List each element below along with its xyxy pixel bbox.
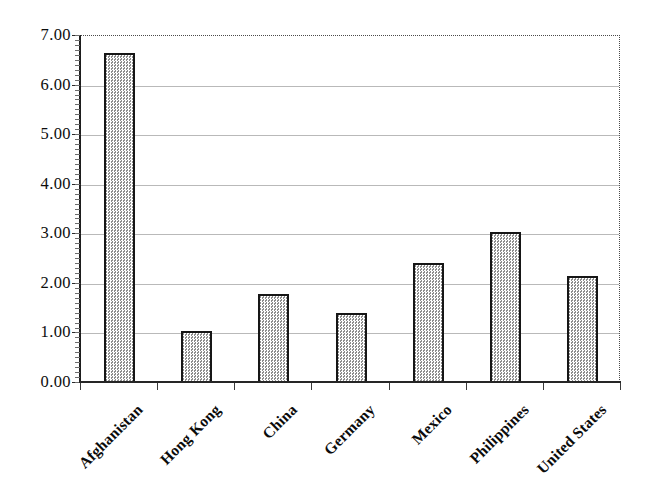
y-axis-minor-tick (75, 179, 80, 180)
y-axis-minor-tick (75, 40, 80, 41)
y-axis-minor-tick (75, 233, 80, 234)
x-axis-tick (466, 383, 467, 390)
y-axis-minor-tick (75, 164, 80, 165)
y-axis-minor-tick (75, 283, 80, 284)
bar (413, 263, 444, 384)
x-axis-category-label: China (259, 401, 301, 443)
bar (258, 294, 289, 383)
y-axis-minor-tick (75, 328, 80, 329)
y-axis-minor-tick (75, 70, 80, 71)
y-axis-minor-tick (75, 45, 80, 46)
x-axis-tick (543, 383, 544, 390)
y-axis-minor-tick (75, 278, 80, 279)
y-axis-tick-label: 7.00 (7, 25, 71, 45)
y-axis-minor-tick (75, 323, 80, 324)
y-axis-minor-tick (75, 139, 80, 140)
bar (336, 313, 367, 383)
y-axis-minor-tick (75, 184, 80, 185)
y-axis-minor-tick (75, 159, 80, 160)
x-axis-tick (234, 383, 235, 390)
x-axis-category-label: Hong Kong (156, 401, 224, 469)
y-axis-minor-tick (75, 194, 80, 195)
y-axis-minor-tick (75, 99, 80, 100)
y-axis-tick-label: 0.00 (7, 372, 71, 392)
y-axis-minor-tick (75, 35, 80, 36)
y-axis-minor-tick (75, 303, 80, 304)
y-axis-minor-tick (75, 318, 80, 319)
y-axis-minor-tick (75, 248, 80, 249)
x-axis-category-label: Germany (320, 401, 378, 459)
y-axis-minor-tick (75, 75, 80, 76)
y-axis-minor-tick (75, 199, 80, 200)
y-axis-minor-tick (75, 357, 80, 358)
y-axis-minor-tick (75, 313, 80, 314)
y-axis-minor-tick (75, 352, 80, 353)
gridline (81, 86, 619, 87)
x-axis-category-label: United States (533, 401, 610, 478)
y-axis-minor-tick (75, 362, 80, 363)
bar-chart: 0.001.002.003.004.005.006.007.00 Afghani… (0, 0, 651, 490)
y-axis-minor-tick (75, 332, 80, 333)
y-axis-minor-tick (75, 288, 80, 289)
plot-area (80, 35, 620, 382)
x-axis-category-label: Afghanistan (75, 401, 147, 473)
x-axis-line (79, 381, 621, 383)
y-axis-minor-tick (75, 228, 80, 229)
y-axis-minor-tick (75, 85, 80, 86)
y-axis-tick-label: 5.00 (7, 124, 71, 144)
y-axis-minor-tick (75, 104, 80, 105)
y-axis-minor-tick (75, 109, 80, 110)
y-axis-minor-tick (75, 114, 80, 115)
x-axis-tick (80, 383, 81, 390)
x-axis-category-label: Mexico (408, 401, 456, 449)
bar (104, 53, 135, 383)
y-axis-minor-tick (75, 293, 80, 294)
y-axis-minor-tick (75, 144, 80, 145)
y-axis-minor-tick (75, 119, 80, 120)
y-axis-tick-label: 6.00 (7, 75, 71, 95)
y-axis-minor-tick (75, 263, 80, 264)
y-axis-minor-tick (75, 298, 80, 299)
x-axis-category-label: Philippines (466, 401, 533, 468)
y-axis-minor-tick (75, 367, 80, 368)
y-axis-minor-tick (75, 124, 80, 125)
y-axis-minor-tick (75, 238, 80, 239)
y-axis-minor-tick (75, 214, 80, 215)
y-axis-minor-tick (75, 337, 80, 338)
y-axis-minor-tick (75, 268, 80, 269)
y-axis-minor-tick (75, 154, 80, 155)
y-axis-minor-tick (75, 209, 80, 210)
gridline (81, 185, 619, 186)
y-axis-minor-tick (75, 372, 80, 373)
y-axis-minor-tick (75, 342, 80, 343)
x-axis-tick (620, 383, 621, 390)
y-axis-minor-tick (75, 174, 80, 175)
y-axis-minor-tick (75, 308, 80, 309)
y-axis-tick-label: 1.00 (7, 322, 71, 342)
y-axis-minor-tick (75, 243, 80, 244)
y-axis-minor-tick (75, 189, 80, 190)
y-axis-minor-tick (75, 149, 80, 150)
x-axis-tick (157, 383, 158, 390)
x-axis-tick (311, 383, 312, 390)
x-axis-tick (389, 383, 390, 390)
bar (181, 331, 212, 383)
gridline (81, 284, 619, 285)
y-axis-minor-tick (75, 258, 80, 259)
y-axis-minor-tick (75, 347, 80, 348)
y-axis-minor-tick (75, 60, 80, 61)
y-axis-minor-tick (75, 273, 80, 274)
y-axis-minor-tick (75, 223, 80, 224)
y-axis-minor-tick (75, 169, 80, 170)
y-axis-minor-tick (75, 95, 80, 96)
y-axis-tick-label: 4.00 (7, 174, 71, 194)
gridline (81, 234, 619, 235)
y-axis-minor-tick (75, 377, 80, 378)
y-axis-minor-tick (75, 129, 80, 130)
gridline (81, 135, 619, 136)
y-axis-minor-tick (75, 218, 80, 219)
y-axis-minor-tick (75, 253, 80, 254)
bar (490, 232, 521, 383)
y-axis-minor-tick (75, 90, 80, 91)
y-axis-tick-label: 3.00 (7, 223, 71, 243)
